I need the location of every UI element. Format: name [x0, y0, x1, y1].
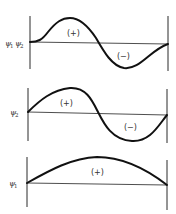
- panel-psi2: ψ 2 (+) (−): [10, 88, 167, 143]
- y-label-psi2-subscript: 2: [20, 43, 24, 49]
- product-wave-curve: [30, 18, 168, 68]
- y-label-psi1-subscript: 1: [10, 43, 14, 49]
- positive-region-label: (+): [67, 29, 80, 38]
- zero-baseline: [27, 183, 167, 185]
- panel-psi1: ψ 1 (+): [9, 157, 167, 210]
- y-label-psi1-subscript: 1: [14, 183, 18, 189]
- positive-region-label: (+): [60, 99, 73, 108]
- negative-region-label: (−): [124, 123, 137, 132]
- y-label-psi2-subscript: 2: [15, 112, 19, 118]
- negative-region-label: (−): [117, 52, 130, 61]
- panel-psi1-psi2: ψ 1 ψ 2 (+) (−): [5, 16, 168, 71]
- positive-region-label: (+): [91, 168, 104, 177]
- wavefunction-diagram: ψ 1 ψ 2 (+) (−) ψ 2 (+) (−) ψ 1 (+): [0, 0, 176, 214]
